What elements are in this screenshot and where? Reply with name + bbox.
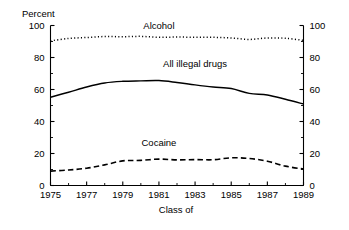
- y-tick-label-left: 20: [34, 148, 45, 159]
- x-tick-label: 1977: [76, 189, 97, 200]
- y-tick-label-right: 20: [310, 148, 321, 159]
- series-curve-layer: [51, 36, 304, 171]
- x-tick-label: 1975: [40, 189, 61, 200]
- series-line-alcohol: [51, 36, 304, 40]
- series-label-cocaine: Cocaine: [141, 137, 176, 148]
- line-chart: 0020204040606080801001001975197719791981…: [0, 0, 349, 230]
- x-tick-label: 1985: [221, 189, 242, 200]
- series-line-cocaine: [51, 158, 304, 171]
- x-tick-label: 1989: [293, 189, 314, 200]
- y-tick-label-right: 100: [310, 20, 326, 31]
- series-line-all-illegal-drugs: [51, 80, 304, 104]
- x-tick-label: 1979: [112, 189, 133, 200]
- y-tick-label-left: 60: [34, 84, 45, 95]
- y-tick-label-left: 100: [29, 20, 45, 31]
- series-label-all-illegal-drugs: All illegal drugs: [163, 58, 227, 69]
- y-tick-label-left: 40: [34, 116, 45, 127]
- x-tick-label: 1987: [257, 189, 278, 200]
- y-tick-label-right: 60: [310, 84, 321, 95]
- series-label-alcohol: Alcohol: [143, 20, 174, 31]
- x-axis-title: Class of: [159, 204, 194, 215]
- y-tick-label-right: 80: [310, 52, 321, 63]
- tick-label-layer: 0020204040606080801001001975197719791981…: [29, 20, 326, 200]
- y-axis-title: Percent: [22, 8, 55, 19]
- chart-container: 0020204040606080801001001975197719791981…: [0, 0, 349, 230]
- x-tick-label: 1981: [148, 189, 169, 200]
- axis-layer: [51, 26, 304, 186]
- y-tick-label-left: 80: [34, 52, 45, 63]
- y-tick-label-right: 40: [310, 116, 321, 127]
- x-tick-label: 1983: [185, 189, 206, 200]
